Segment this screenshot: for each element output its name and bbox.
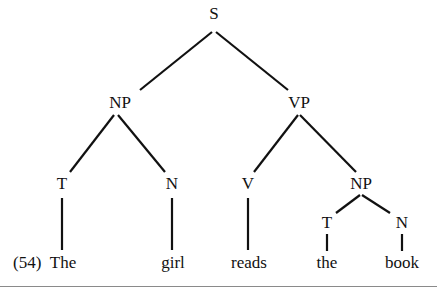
edge-npobj-t xyxy=(336,195,360,213)
node-t-object: T xyxy=(322,214,332,231)
node-np-subject: NP xyxy=(109,94,131,111)
leaf-the-subject: The xyxy=(50,254,76,271)
edge-vp-np xyxy=(300,115,356,172)
node-n-object: N xyxy=(396,214,408,231)
tree-edges xyxy=(0,0,437,292)
edge-npobj-n xyxy=(362,195,390,213)
bottom-rule xyxy=(0,286,437,287)
node-np-object: NP xyxy=(350,175,372,192)
edge-np-n xyxy=(118,115,165,172)
leaf-book: book xyxy=(385,254,419,271)
node-n-subject: N xyxy=(166,175,178,192)
example-number: (54) xyxy=(13,254,41,271)
edge-s-np xyxy=(140,32,212,90)
leaf-the-object: the xyxy=(317,254,338,271)
node-vp: VP xyxy=(288,94,310,111)
edge-vp-v xyxy=(254,115,298,172)
node-t-subject: T xyxy=(57,175,67,192)
leaf-girl: girl xyxy=(161,254,185,271)
edge-np-t xyxy=(70,115,114,172)
edge-s-vp xyxy=(216,32,288,90)
leaf-reads: reads xyxy=(231,254,267,271)
node-s: S xyxy=(209,5,218,22)
node-v: V xyxy=(242,175,254,192)
